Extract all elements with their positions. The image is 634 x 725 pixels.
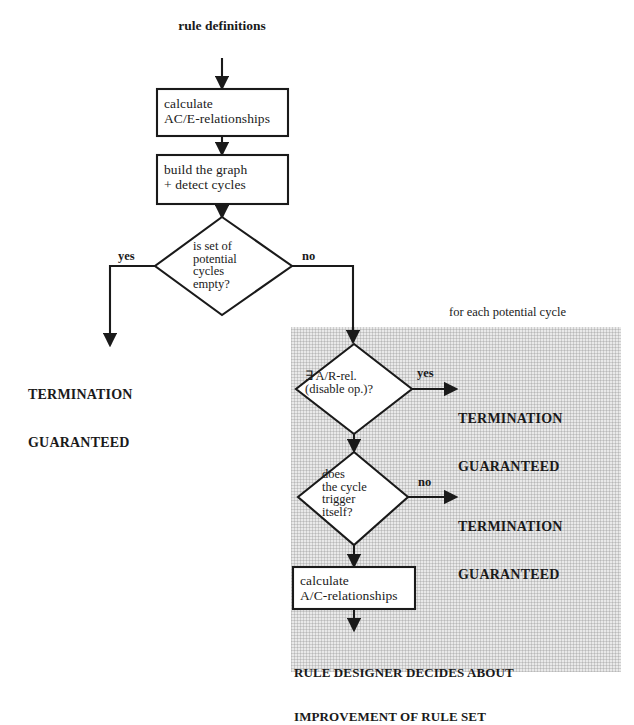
terminal-left-line1: TERMINATION [28, 387, 133, 403]
terminal-cycle-line2: GUARANTEED [458, 567, 563, 583]
final-outcome-line2: IMPROVEMENT OF RULE SET [294, 710, 514, 725]
final-outcome-label: RULE DESIGNER DECIDES ABOUT IMPROVEMENT … [294, 637, 514, 725]
edge-set-empty-no [292, 266, 353, 342]
source-label: rule definitions [172, 18, 272, 33]
panel-title-for-each-cycle: for each potential cycle [449, 305, 566, 319]
final-outcome-line1: RULE DESIGNER DECIDES ABOUT [294, 666, 514, 681]
terminal-termination-cycle: TERMINATION GUARANTEED [458, 487, 563, 616]
branch-label-set-empty-no: no [302, 249, 315, 263]
process-label-calc-ac: calculate A/C-relationships [300, 573, 398, 603]
terminal-cycle-line1: TERMINATION [458, 519, 563, 535]
decision-label-ar-rel: ∃ A/R-rel. (disable op.)? [305, 370, 373, 395]
process-label-build-graph: build the graph + detect cycles [164, 162, 247, 192]
terminal-termination-left: TERMINATION GUARANTEED [28, 355, 133, 484]
branch-label-ar-rel-yes: yes [417, 366, 434, 380]
terminal-ar-line1: TERMINATION [458, 411, 563, 427]
edge-set-empty-yes [110, 266, 155, 345]
decision-label-set-empty: is set of potential cycles empty? [193, 240, 237, 290]
branch-label-set-empty-yes: yes [118, 249, 135, 263]
process-label-calc-ace: calculate AC/E-relationships [164, 96, 270, 126]
decision-label-cycle-trigger: does the cycle trigger itself? [322, 468, 367, 518]
terminal-left-line2: GUARANTEED [28, 435, 133, 451]
terminal-ar-line2: GUARANTEED [458, 459, 563, 475]
branch-label-cycle-trigger-no: no [418, 475, 431, 489]
